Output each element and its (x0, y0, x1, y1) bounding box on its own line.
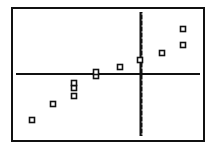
y-axis-tick (142, 44, 144, 45)
y-axis-tick (142, 122, 144, 123)
y-axis-tick (142, 80, 144, 81)
y-axis-tick (142, 56, 144, 57)
y-axis-tick (142, 32, 144, 33)
y-axis-tick (142, 38, 144, 39)
y-axis-tick (142, 128, 144, 129)
y-axis-tick (142, 110, 144, 111)
data-point-marker (138, 58, 143, 63)
y-axis-tick (142, 98, 144, 99)
y-axis-tick (142, 14, 144, 15)
y-axis-tick (142, 104, 144, 105)
data-point-marker (30, 118, 35, 123)
y-axis-tick (142, 134, 144, 135)
y-axis-tick (142, 50, 144, 51)
y-axis-tick (142, 86, 144, 87)
y-axis-tick (142, 20, 144, 21)
data-point-marker (72, 81, 77, 86)
data-point-marker (118, 65, 123, 70)
y-axis-tick (142, 68, 144, 69)
data-point-marker (72, 94, 77, 99)
y-axis-tick (142, 26, 144, 27)
data-point-marker (94, 70, 99, 75)
data-point-marker (181, 27, 186, 32)
data-point-marker (51, 102, 56, 107)
data-point-marker (181, 43, 186, 48)
scatter-plot (0, 0, 214, 149)
y-axis-tick (142, 116, 144, 117)
y-axis-tick (142, 92, 144, 93)
data-point-marker (160, 51, 165, 56)
